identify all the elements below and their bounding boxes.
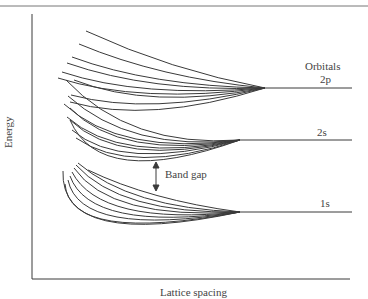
level-2p-label: 2p [320, 74, 331, 85]
level-1s-label: 1s [320, 198, 330, 209]
y-axis-label: Energy [2, 116, 14, 148]
band-gap-label: Band gap [165, 169, 207, 180]
band-2s-curves [64, 80, 240, 161]
orbitals-header: Orbitals [305, 61, 340, 72]
band-2p-curves [58, 31, 265, 110]
x-axis-label: Lattice spacing [160, 287, 227, 298]
band-gap-arrow-icon [153, 162, 159, 191]
diagram-canvas [0, 0, 368, 299]
energy-band-diagram: Energy Lattice spacing Orbitals 2p 2s 1s… [0, 0, 368, 299]
band-1s-curves [63, 163, 240, 224]
level-2s-label: 2s [317, 127, 327, 138]
